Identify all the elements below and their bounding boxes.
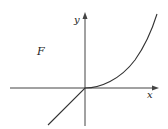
function-curve [48, 14, 157, 125]
y-axis-arrow-icon [83, 12, 88, 19]
graph-diagram: F y x [0, 0, 168, 129]
x-axis-arrow-icon [152, 86, 159, 91]
y-axis-label: y [73, 14, 80, 25]
region-label: F [36, 45, 45, 58]
x-axis-label: x [147, 89, 153, 100]
